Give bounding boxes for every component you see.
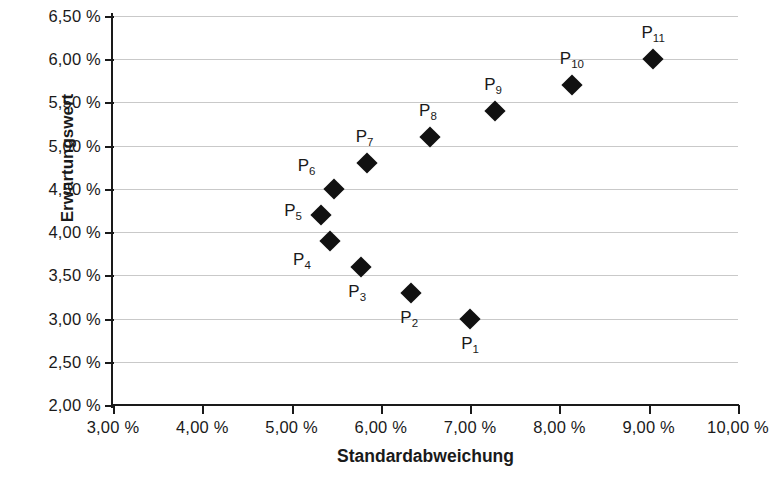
gridline-horizontal xyxy=(113,362,738,363)
x-axis-tick xyxy=(113,405,115,414)
data-point-marker[interactable] xyxy=(485,100,506,121)
data-point-marker[interactable] xyxy=(401,282,422,303)
data-point-marker[interactable] xyxy=(419,126,440,147)
x-axis-tick-label: 6,00 % xyxy=(355,418,408,437)
x-axis-tick xyxy=(381,405,383,414)
x-axis-tick-label: 4,00 % xyxy=(176,418,229,437)
data-point-marker[interactable] xyxy=(356,152,377,173)
x-axis-tick-label: 9,00 % xyxy=(622,418,675,437)
data-point-marker[interactable] xyxy=(561,75,582,96)
data-point-label: P7 xyxy=(356,128,374,149)
data-point-marker[interactable] xyxy=(643,49,664,70)
data-point-marker[interactable] xyxy=(351,256,372,277)
y-axis-tick-label: 4,50 % xyxy=(9,179,101,198)
gridline-horizontal xyxy=(113,319,738,320)
x-axis-title: Standardabweichung xyxy=(113,446,738,467)
data-point-label: P3 xyxy=(348,282,366,303)
y-axis-tick-label: 3,50 % xyxy=(9,266,101,285)
y-axis-tick-label: 4,00 % xyxy=(9,223,101,242)
x-axis-tick-label: 3,00 % xyxy=(87,418,140,437)
x-axis-tick xyxy=(738,405,740,414)
x-axis-line xyxy=(112,404,739,406)
y-axis-tick-label: 5,50 % xyxy=(9,93,101,112)
y-axis-tick-label: 6,00 % xyxy=(9,50,101,69)
data-point-label: P1 xyxy=(461,334,479,355)
x-axis-tick xyxy=(202,405,204,414)
x-axis-tick xyxy=(292,405,294,414)
x-axis-tick-label: 10,00 % xyxy=(707,418,769,437)
data-point-marker[interactable] xyxy=(323,178,344,199)
gridline-horizontal xyxy=(113,189,738,190)
data-point-label: P5 xyxy=(284,201,302,222)
y-axis-tick-label: 2,00 % xyxy=(9,396,101,415)
x-axis-tick xyxy=(649,405,651,414)
data-point-label: P11 xyxy=(642,24,665,45)
y-axis-tick-label: 2,50 % xyxy=(9,352,101,371)
data-point-label: P2 xyxy=(400,308,418,329)
plot-area: P1P2P3P4P5P6P7P8P9P10P11 xyxy=(113,16,738,405)
x-axis-tick-label: 7,00 % xyxy=(444,418,497,437)
gridline-horizontal xyxy=(113,232,738,233)
x-axis-tick-label: 5,00 % xyxy=(265,418,318,437)
x-axis-tick-label: 8,00 % xyxy=(533,418,586,437)
data-point-label: P8 xyxy=(419,102,437,123)
x-axis-tick xyxy=(559,405,561,414)
data-point-label: P10 xyxy=(560,50,584,71)
data-point-label: P9 xyxy=(484,76,502,97)
data-point-marker[interactable] xyxy=(310,204,331,225)
y-axis-line xyxy=(111,13,113,408)
gridline-horizontal xyxy=(113,16,738,17)
scatter-chart: Erwartungswert P1P2P3P4P5P6P7P8P9P10P11 … xyxy=(0,0,780,478)
y-axis-tick-label: 6,50 % xyxy=(9,7,101,26)
data-point-label: P4 xyxy=(293,250,311,271)
y-axis-tick-labels: 6,50 %6,00 %5,50 %5,00 %4,50 %4,00 %3,50… xyxy=(0,0,101,478)
data-point-label: P6 xyxy=(298,156,316,177)
data-point-marker[interactable] xyxy=(460,308,481,329)
x-axis-tick xyxy=(470,405,472,414)
gridline-horizontal xyxy=(113,146,738,147)
gridline-horizontal xyxy=(113,275,738,276)
data-point-marker[interactable] xyxy=(319,230,340,251)
y-axis-tick-label: 3,00 % xyxy=(9,309,101,328)
y-axis-tick-label: 5,00 % xyxy=(9,136,101,155)
